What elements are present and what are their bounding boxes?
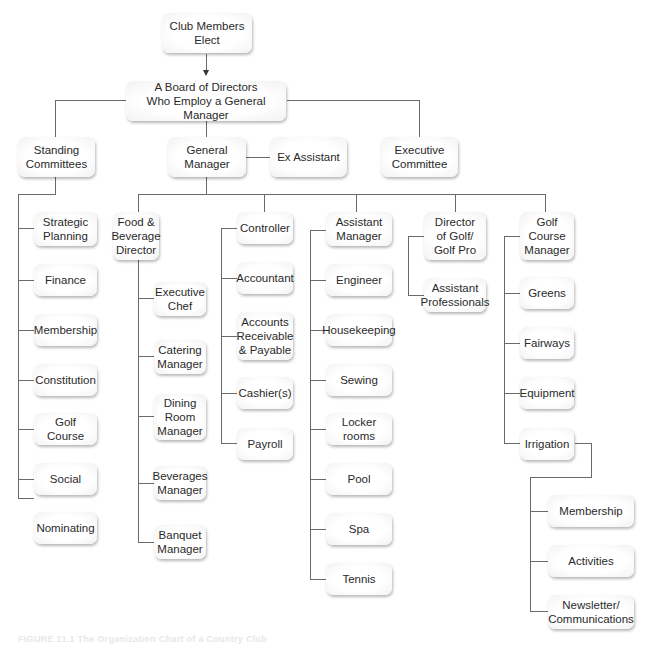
connector-line (18, 479, 34, 480)
connector-line (591, 443, 592, 477)
general-manager-node: General Manager (168, 137, 246, 177)
fb-banquet-manager: Banquet Manager (154, 525, 206, 559)
fb-dining-room-manager: Dining Room Manager (154, 394, 206, 440)
connector-line (221, 393, 237, 394)
assistant-manager-node: Assistant Manager (326, 212, 392, 246)
connector-line (206, 120, 207, 138)
assistant-locker-rooms: Locker rooms (326, 413, 392, 445)
irrigation-newsletter-communications: Newsletter/ Communications (548, 595, 634, 629)
figure-caption: FIGURE 11.1 The Organization Chart of a … (18, 634, 267, 644)
connector-line (419, 100, 420, 138)
connector-line (18, 429, 34, 430)
connector-line (504, 236, 520, 237)
connector-line (310, 230, 311, 580)
assistant-sewing: Sewing (326, 364, 392, 396)
assistant-pool: Pool (326, 463, 392, 495)
connector-line (310, 380, 326, 381)
arrow-down-icon (203, 70, 209, 76)
fb-beverages-manager: Beverages Manager (154, 466, 206, 500)
connector-line (206, 176, 207, 194)
connector-line (138, 260, 139, 542)
fb-catering-manager: Catering Manager (154, 340, 206, 374)
connector-line (310, 479, 326, 480)
connector-line (221, 228, 237, 229)
controller-node: Controller (237, 212, 293, 244)
connector-line (221, 278, 237, 279)
connector-line (504, 293, 520, 294)
controller-accounts-receivable-payable: Accounts Receivable & Payable (237, 312, 293, 360)
connector-line (530, 477, 531, 611)
connector-line (504, 236, 505, 444)
connector-line (18, 228, 34, 229)
connector-line (310, 529, 326, 530)
connector-line (408, 236, 409, 295)
controller-cashiers: Cashier(s) (237, 377, 293, 409)
connector-line (55, 176, 56, 194)
connector-line (18, 330, 34, 331)
connector-line (138, 542, 154, 543)
committee-membership: Membership (34, 314, 97, 346)
connector-line (18, 194, 19, 498)
connector-line (530, 511, 548, 512)
irrigation-membership: Membership (548, 495, 634, 527)
club-members-node: Club Members Elect (162, 13, 252, 53)
course-fairways: Fairways (520, 327, 574, 359)
board-of-directors-node: A Board of Directors Who Employ a Genera… (126, 81, 286, 121)
connector-line (310, 579, 326, 580)
controller-payroll: Payroll (237, 428, 293, 460)
golf-course-manager-node: Golf Course Manager (520, 212, 574, 260)
assistant-tennis: Tennis (326, 563, 392, 595)
committee-social: Social (34, 463, 97, 495)
connector-line (310, 280, 326, 281)
connector-line (504, 443, 520, 444)
connector-line (138, 416, 154, 417)
connector-line (18, 498, 34, 499)
food-beverage-director-node: Food & Beverage Director (113, 212, 159, 260)
connector-line (504, 343, 520, 344)
connector-line (55, 100, 127, 101)
connector-line (18, 194, 56, 195)
committee-nominating: Nominating (34, 512, 97, 544)
connector-line (138, 298, 154, 299)
golf-assistant-professionals: Assistant Professionals (424, 278, 486, 312)
fb-executive-chef: Executive Chef (154, 282, 206, 316)
committee-strategic-planning: Strategic Planning (34, 212, 97, 246)
connector-line (504, 393, 520, 394)
assistant-spa: Spa (326, 513, 392, 545)
connector-line (55, 100, 56, 138)
course-irrigation: Irrigation (520, 428, 574, 460)
standing-committees-node: Standing Committees (18, 137, 95, 177)
executive-committee-node: Executive Committee (381, 137, 458, 177)
connector-line (221, 336, 237, 337)
connector-line (530, 561, 548, 562)
connector-line (221, 443, 237, 444)
committee-finance: Finance (34, 264, 97, 296)
connector-line (264, 194, 265, 212)
connector-line (455, 194, 456, 212)
ex-assistant-node: Ex Assistant (270, 137, 347, 177)
connector-line (18, 280, 34, 281)
course-greens: Greens (520, 277, 574, 309)
connector-line (545, 194, 546, 212)
assistant-engineer: Engineer (326, 264, 392, 296)
connector-line (575, 443, 591, 444)
connector-line (138, 194, 139, 212)
connector-line (310, 230, 326, 231)
connector-line (408, 236, 424, 237)
controller-accountant: Accountant (237, 262, 293, 294)
irrigation-activities: Activities (548, 545, 634, 577)
connector-line (310, 429, 326, 430)
connector-line (530, 477, 592, 478)
connector-line (18, 380, 34, 381)
connector-line (356, 194, 357, 212)
committee-golf-course: Golf Course (34, 413, 97, 445)
connector-line (246, 157, 270, 158)
course-equipment: Equipment (520, 377, 574, 409)
connector-line (530, 611, 548, 612)
connector-line (138, 356, 154, 357)
assistant-housekeeping: Housekeeping (326, 314, 392, 346)
director-of-golf-node: Director of Golf/ Golf Pro (424, 212, 486, 260)
connector-line (206, 54, 207, 70)
connector-line (138, 194, 546, 195)
committee-constitution: Constitution (34, 364, 97, 396)
